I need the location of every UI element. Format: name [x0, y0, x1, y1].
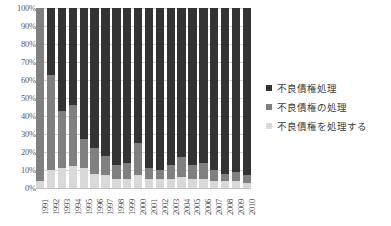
- bar-segment: [101, 175, 109, 188]
- bar-column[interactable]: [36, 8, 44, 188]
- bar-segment: [221, 174, 229, 181]
- x-axis-tick: 2008: [221, 189, 229, 226]
- bar-segment: [167, 165, 175, 179]
- x-axis-tick: 1991: [36, 189, 44, 226]
- y-axis-tick-label: 70%: [2, 57, 36, 67]
- bar-column[interactable]: [134, 8, 142, 188]
- bar-segment: [156, 170, 164, 179]
- bar-segment: [188, 8, 196, 165]
- bar-column[interactable]: [80, 8, 88, 188]
- bar-column[interactable]: [101, 8, 109, 188]
- bar-column[interactable]: [188, 8, 196, 188]
- x-axis-tick: 2007: [210, 189, 218, 226]
- bar-segment: [80, 168, 88, 188]
- x-axis-tick: 1996: [90, 189, 98, 226]
- bar-segment: [177, 157, 185, 177]
- bar-column[interactable]: [90, 8, 98, 188]
- bar-segment: [232, 8, 240, 172]
- x-axis-tick: 2006: [199, 189, 207, 226]
- bar-column[interactable]: [243, 8, 251, 188]
- bar-segment: [145, 8, 153, 168]
- bar-segment: [58, 168, 66, 188]
- x-axis-labels: 1991199219931994199519961997199819992000…: [36, 189, 251, 226]
- y-axis-tick-label: 10%: [2, 165, 36, 175]
- legend-swatch-icon: [266, 104, 272, 110]
- bar-segment: [112, 8, 120, 165]
- bar-column[interactable]: [58, 8, 66, 188]
- bar-column[interactable]: [199, 8, 207, 188]
- bar-segment: [145, 179, 153, 188]
- y-axis-tick-label: 100%: [2, 3, 36, 13]
- bar-segment: [36, 181, 44, 188]
- bar-column[interactable]: [221, 8, 229, 188]
- bar-segment: [156, 179, 164, 188]
- bar-segment: [199, 179, 207, 188]
- bar-segment: [243, 183, 251, 188]
- bar-segment: [177, 177, 185, 188]
- bar-segment: [210, 170, 218, 181]
- legend-item-label: 不良債権の処理: [277, 100, 347, 114]
- chart-legend: 不良債権処理不良債権の処理不良債権を処理する: [266, 78, 391, 135]
- bar-column[interactable]: [177, 8, 185, 188]
- bar-column[interactable]: [167, 8, 175, 188]
- y-axis-tick-label: 20%: [2, 147, 36, 157]
- bar-segment: [58, 8, 66, 111]
- bar-segment: [232, 181, 240, 188]
- bar-segment: [69, 8, 77, 105]
- x-axis-tick: 1995: [80, 189, 88, 226]
- plot-area: [36, 8, 251, 188]
- bar-segment: [210, 8, 218, 170]
- x-axis-tick: 1997: [101, 189, 109, 226]
- bar-segment: [199, 163, 207, 179]
- bar-segment: [188, 179, 196, 188]
- bar-segment: [199, 8, 207, 163]
- bar-segment: [243, 175, 251, 182]
- bar-segment: [134, 175, 142, 188]
- x-axis-tick: 1998: [112, 189, 120, 226]
- bar-column[interactable]: [145, 8, 153, 188]
- x-axis-tick: 2010: [243, 189, 251, 226]
- bar-segment: [36, 8, 44, 181]
- x-axis-tick: 2001: [145, 189, 153, 226]
- bar-segment: [80, 139, 88, 168]
- legend-item-label: 不良債権を処理する: [277, 119, 367, 133]
- legend-item[interactable]: 不良債権を処理する: [266, 116, 391, 135]
- y-axis-tick-label: 90%: [2, 21, 36, 31]
- bar-segment: [101, 156, 109, 176]
- bar-segment: [221, 181, 229, 188]
- bar-segment: [145, 168, 153, 179]
- bar-segment: [243, 8, 251, 175]
- bar-series-group: [36, 8, 251, 188]
- x-axis-tick: 1999: [123, 189, 131, 226]
- bar-segment: [101, 8, 109, 156]
- legend-item[interactable]: 不良債権の処理: [266, 97, 391, 116]
- y-axis-tick-label: 60%: [2, 75, 36, 85]
- legend-swatch-icon: [266, 123, 272, 129]
- y-axis: 100%90%80%70%60%50%40%30%20%10%0%: [0, 0, 36, 226]
- bar-segment: [112, 165, 120, 179]
- bar-column[interactable]: [232, 8, 240, 188]
- bar-column[interactable]: [69, 8, 77, 188]
- x-axis-tick: 2000: [134, 189, 142, 226]
- bar-column[interactable]: [156, 8, 164, 188]
- y-axis-tick-label: 80%: [2, 39, 36, 49]
- legend-item[interactable]: 不良債権処理: [266, 78, 391, 97]
- x-axis-tick: 2005: [188, 189, 196, 226]
- bar-segment: [167, 8, 175, 165]
- bar-column[interactable]: [210, 8, 218, 188]
- bar-segment: [123, 8, 131, 163]
- bar-segment: [123, 179, 131, 188]
- bar-segment: [69, 166, 77, 188]
- bar-column[interactable]: [112, 8, 120, 188]
- x-axis-tick: 2002: [156, 189, 164, 226]
- bar-segment: [167, 179, 175, 188]
- bar-column[interactable]: [47, 8, 55, 188]
- bar-segment: [90, 174, 98, 188]
- y-axis-tick-label: 30%: [2, 129, 36, 139]
- bar-segment: [90, 8, 98, 148]
- bar-segment: [232, 172, 240, 181]
- bar-segment: [134, 143, 142, 175]
- bar-column[interactable]: [123, 8, 131, 188]
- bar-segment: [123, 163, 131, 179]
- bar-segment: [156, 8, 164, 170]
